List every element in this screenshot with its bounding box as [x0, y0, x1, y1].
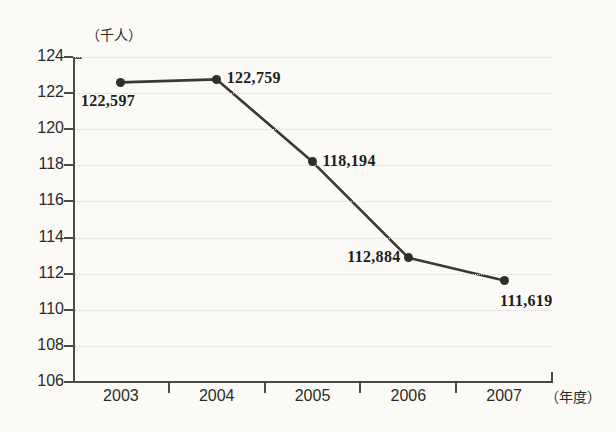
y-axis-tick-label: 124: [15, 47, 64, 65]
y-axis-tick-label: 122: [15, 83, 64, 101]
y-axis-tick: [64, 237, 73, 239]
gridline: [75, 129, 552, 130]
x-axis-tick: [359, 382, 361, 393]
y-axis-tick: [64, 164, 73, 166]
data-point-label: 118,194: [323, 152, 376, 170]
y-axis-tick: [64, 92, 73, 94]
data-point[interactable]: [404, 253, 413, 262]
gridline: [75, 238, 552, 239]
data-point-label: 122,759: [227, 69, 281, 87]
plot-area: 1241221201181161141121101081062003200420…: [73, 57, 552, 382]
y-axis-tick: [64, 128, 73, 130]
gridline: [75, 201, 552, 202]
line-chart: （千人） （年度） 124122120118116114112110108106…: [0, 0, 616, 432]
y-axis-unit-label: （千人）: [86, 24, 142, 44]
gridline: [75, 274, 552, 275]
y-axis-tick-label: 106: [15, 372, 64, 390]
y-axis-tick-label: 114: [15, 228, 64, 246]
x-axis-tick: [264, 382, 266, 393]
x-axis-tick-label: 2007: [486, 387, 522, 405]
gridline: [75, 93, 552, 94]
data-point-label: 122,597: [81, 92, 135, 110]
y-axis-tick: [64, 345, 73, 347]
x-axis-unit-label: （年度）: [545, 386, 601, 406]
x-axis-tick-label: 2004: [199, 387, 235, 405]
series-polyline: [121, 79, 504, 280]
gridline: [75, 57, 552, 58]
y-axis-tick-label: 120: [15, 119, 64, 137]
data-point-label: 111,619: [500, 292, 552, 310]
y-axis-tick-label: 112: [15, 264, 64, 282]
data-point[interactable]: [500, 276, 509, 285]
y-axis-tick: [64, 200, 73, 202]
series-line: [73, 57, 552, 382]
y-axis-tick: [64, 56, 73, 58]
y-axis-tick-label: 116: [15, 191, 64, 209]
x-axis-tick-label: 2006: [391, 387, 427, 405]
gridline: [75, 346, 552, 347]
x-axis-tick: [455, 382, 457, 393]
x-axis-tick-label: 2005: [295, 387, 331, 405]
y-axis-tick-label: 108: [15, 336, 64, 354]
y-axis-tick: [64, 309, 73, 311]
x-axis-tick-label: 2003: [103, 387, 139, 405]
y-axis-tick: [64, 381, 73, 383]
y-axis-tick-label: 110: [15, 300, 64, 318]
y-axis-tick-label: 118: [15, 155, 64, 173]
gridline: [75, 310, 552, 311]
data-point-label: 112,884: [347, 248, 400, 266]
y-axis-tick: [64, 273, 73, 275]
x-axis-tick: [168, 382, 170, 393]
